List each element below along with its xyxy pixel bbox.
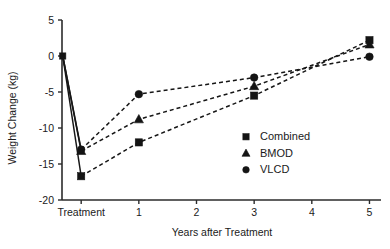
legend-label-combined: Combined: [260, 130, 310, 142]
series-layer: [60, 37, 374, 180]
series-dashed-segment: [81, 57, 369, 150]
x-tick-label: 1: [136, 206, 142, 218]
x-axis-title: Years after Treatment: [172, 226, 273, 238]
series-dashed-segment: [81, 44, 369, 151]
weight-change-chart: 50-5-10-15-20 Weight Change (kg) Treatme…: [0, 0, 390, 249]
x-tick-label: 5: [367, 206, 373, 218]
x-axis-ticks: Treatment12345: [57, 200, 372, 218]
series-solid-segment: [63, 56, 81, 150]
data-point-circle: [77, 146, 85, 154]
data-point-circle: [243, 167, 250, 174]
series-vlcd: [63, 53, 374, 153]
y-axis-group: 50-5-10-15-20 Weight Change (kg): [6, 14, 62, 206]
x-tick-label: 2: [194, 206, 200, 218]
data-point-triangle: [134, 115, 143, 123]
x-tick-label: 4: [309, 206, 315, 218]
y-tick-label: 5: [48, 14, 54, 26]
data-point-square: [135, 139, 142, 146]
data-point-circle: [250, 74, 258, 82]
data-point-circle: [135, 90, 143, 98]
data-point-circle: [366, 53, 374, 61]
x-tick-label: Treatment: [57, 206, 105, 218]
y-tick-label: -10: [39, 122, 54, 134]
x-tick-label: 3: [251, 206, 257, 218]
legend-label-vlcd: VLCD: [260, 163, 289, 175]
data-point-triangle: [242, 149, 250, 156]
y-tick-label: 0: [48, 50, 54, 62]
chart-canvas: 50-5-10-15-20 Weight Change (kg) Treatme…: [0, 0, 390, 249]
x-axis-group: Treatment12345 Years after Treatment: [57, 200, 381, 238]
y-axis-title: Weight Change (kg): [6, 71, 18, 164]
y-tick-label: -15: [39, 158, 54, 170]
chart-legend: CombinedBMODVLCD: [242, 130, 310, 175]
y-axis-ticks: 50-5-10-15-20: [39, 14, 62, 206]
y-tick-label: -20: [39, 194, 54, 206]
series-bmod: [63, 40, 374, 155]
y-tick-label: -5: [45, 86, 54, 98]
data-point-square: [251, 92, 258, 99]
data-point-square: [243, 134, 249, 140]
legend-label-bmod: BMOD: [260, 147, 293, 159]
data-point-square: [78, 173, 85, 180]
series-combined: [60, 37, 373, 180]
